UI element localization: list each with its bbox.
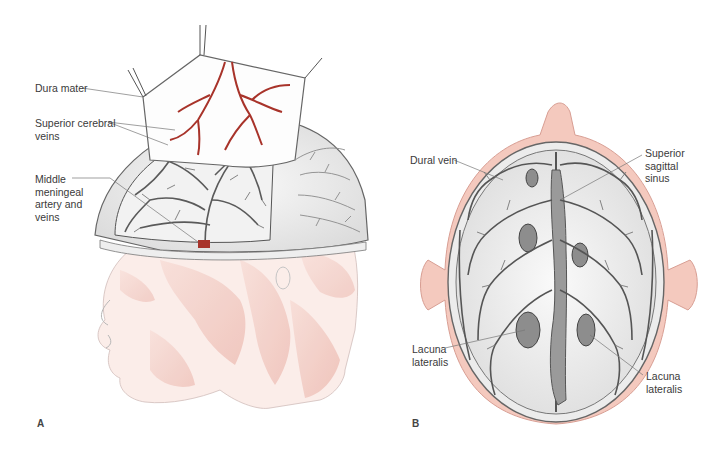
label-lacuna-lateralis-left: Lacuna lateralis [412,343,448,368]
lacuna-lateralis-left [516,312,540,348]
anatomical-illustration [0,0,715,452]
lacuna-lateralis-right [577,314,595,346]
panel-letter-b: B [412,418,419,429]
panel-a-drawing [95,25,368,408]
label-dura-mater: Dura mater [35,82,88,95]
label-lacuna-lateralis-right: Lacuna lateralis [646,370,682,395]
panel-letter-a: A [37,418,44,429]
label-middle-meningeal-artery-and-veins: Middle meningeal artery and veins [35,173,83,223]
label-dural-vein: Dural vein [410,154,457,167]
label-superior-sagittal-sinus: Superior sagittal sinus [645,147,685,185]
face-muscles [98,240,358,408]
label-superior-cerebral-veins: Superior cerebral veins [35,117,116,142]
